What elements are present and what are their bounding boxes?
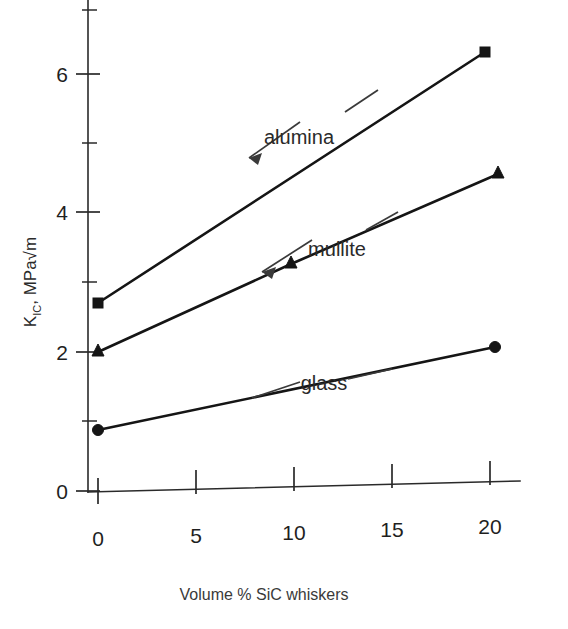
y-axis-minor-ticks [82,10,97,421]
x-tick-label: 15 [380,518,403,541]
data-point-marker [93,425,104,436]
series-mullite [92,166,504,356]
arrowhead-alumina [249,153,262,165]
series-glass [93,342,501,436]
y-tick-label: 2 [56,341,68,364]
series-annotation-alumina: alumina [264,126,335,148]
data-point-marker [93,298,103,308]
y-tick-labels: 0 2 4 6 [56,63,68,503]
chart-svg: 0 2 4 6 0 5 10 15 20 [0,0,568,629]
y-axis-title-suffix: , MPa√m [21,237,40,305]
x-axis-title: Volume % SiC whiskers [180,586,349,603]
y-tick-label: 0 [56,480,68,503]
chart-container: 0 2 4 6 0 5 10 15 20 [0,0,568,629]
series-line-glass [98,347,495,430]
y-tick-label: 4 [56,201,68,224]
x-tick-label: 20 [478,515,501,538]
data-point-marker [490,342,501,353]
leader-line-mullite-2 [366,212,398,230]
data-point-marker [480,47,490,57]
x-tick-labels: 0 5 10 15 20 [92,515,502,550]
series-annotation-glass: glass [301,372,348,394]
x-axis-line [88,481,520,492]
leader-line-alumina-2 [345,90,378,112]
x-tick-label: 10 [282,521,305,544]
x-tick-label: 0 [92,527,104,550]
y-axis-title-subscript: IC [31,305,43,316]
series-annotation-mullite: mullite [308,238,366,260]
series-alumina [93,47,490,308]
data-point-marker [492,166,504,178]
leader-line-glass-2 [348,369,392,379]
y-axis-title-text: KIC, MPa√m [21,237,43,327]
y-tick-label: 6 [56,63,68,86]
y-axis-title: KIC, MPa√m [21,237,43,327]
y-axis-title-prefix: K [21,315,40,327]
x-tick-label: 5 [190,524,202,547]
